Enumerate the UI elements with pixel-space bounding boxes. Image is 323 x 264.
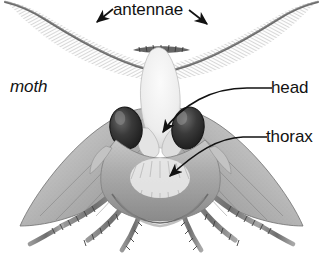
moth-anatomy-figure: antennae head thorax moth <box>0 0 323 264</box>
label-antennae: antennae <box>113 1 183 19</box>
label-head: head <box>271 79 308 97</box>
label-moth-caption: moth <box>10 78 47 96</box>
label-thorax: thorax <box>266 128 313 146</box>
